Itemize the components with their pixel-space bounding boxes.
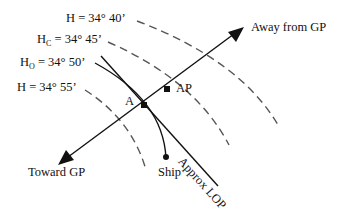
point-ap-marker [164, 86, 170, 92]
label-ship: Ship [158, 166, 181, 179]
label-toward-gp: Toward GP [28, 166, 85, 179]
arrowhead-away-icon [228, 27, 244, 42]
label-h-34-40: H = 34° 40’ [66, 12, 126, 25]
label-hc: HC = 34° 45’ [37, 33, 102, 48]
point-a-marker [141, 102, 147, 108]
label-away-from-gp: Away from GP [251, 21, 326, 34]
ship-marker [163, 154, 169, 160]
label-ho: HO = 34° 50’ [20, 56, 85, 71]
label-h-34-55: H = 34° 55’ [17, 81, 77, 94]
label-a: A [125, 95, 134, 108]
arc-h-34-40 [137, 21, 278, 125]
arc-h-34-55 [85, 90, 146, 170]
arrowhead-toward-icon [58, 150, 74, 165]
label-ap: AP [176, 82, 192, 95]
azimuth-line [64, 31, 238, 160]
